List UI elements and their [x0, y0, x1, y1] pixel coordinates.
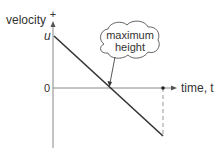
end-time-dot	[161, 86, 165, 90]
callout-line2: height	[115, 41, 145, 53]
velocity-time-diagram: + velocity u 0 time, t maximum height	[0, 0, 215, 153]
u-label: u	[44, 29, 51, 43]
time-label: time, t	[181, 81, 214, 95]
time-axis-arrow-icon	[171, 86, 177, 91]
positive-marker: +	[50, 8, 56, 20]
velocity-axis-arrow-icon	[51, 21, 56, 27]
callout-line1: maximum	[106, 29, 154, 41]
callout-pointer	[110, 57, 115, 83]
velocity-label: velocity	[6, 13, 46, 27]
zero-label: 0	[44, 82, 50, 94]
